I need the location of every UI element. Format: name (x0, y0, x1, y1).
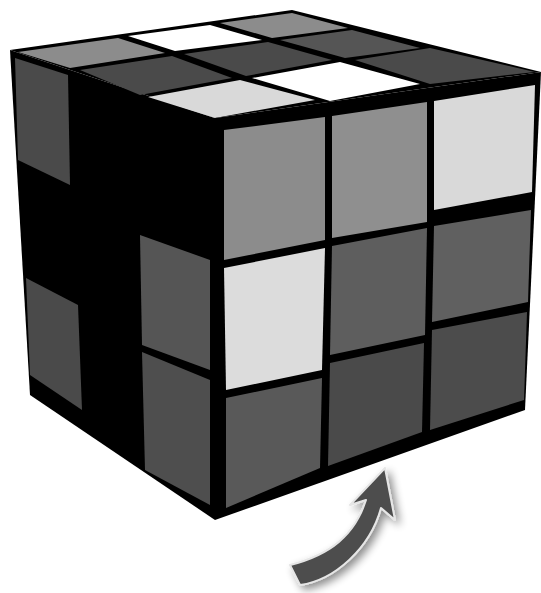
front-sticker-0-0 (224, 117, 325, 260)
cube-left-face (10, 50, 215, 520)
front-sticker-0-1 (332, 102, 427, 238)
rubiks-cube-illustration (0, 0, 541, 593)
front-sticker-1-0 (224, 248, 325, 390)
front-sticker-1-1 (330, 228, 427, 355)
front-sticker-0-2 (434, 85, 535, 210)
cube-front-face (215, 72, 541, 520)
